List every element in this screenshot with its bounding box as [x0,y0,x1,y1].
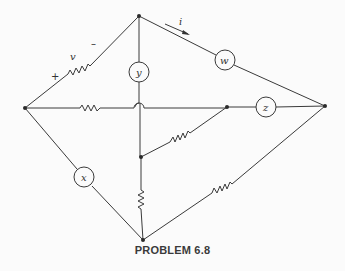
label-plus: + [51,71,59,82]
source-z: z [256,97,276,117]
current-arrow-i [165,24,190,35]
circuit-diagram: y w z x v + – i PROBLEM 6.8 [0,0,345,271]
node-left [23,106,27,110]
svg-text:w: w [220,55,229,66]
node-right [323,104,327,108]
resistor-inner-mid [141,107,227,157]
figure-caption: PROBLEM 6.8 [0,244,345,256]
label-minus: – [91,38,96,49]
source-y: y [129,62,149,82]
resistor-v [25,16,139,108]
node-inner [139,155,143,159]
branch-left-mid [25,103,227,111]
resistor-inner-bottom [138,157,144,240]
node-bottom [141,238,145,242]
circuit-svg: y w z x v + – i [0,0,345,271]
branch-y [135,16,140,157]
label-i: i [179,16,182,27]
label-v: v [70,51,76,62]
resistor-bottom-right [143,106,325,240]
node-top [137,14,141,18]
source-w: w [215,50,235,70]
source-x: x [74,167,94,187]
node-mid [225,105,229,109]
svg-text:x: x [81,172,87,183]
svg-text:z: z [262,102,269,113]
svg-text:y: y [135,67,142,78]
